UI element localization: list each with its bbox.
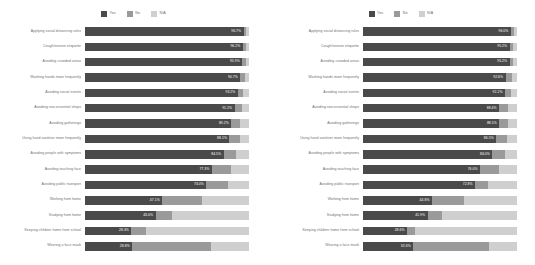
bar-segment-na[interactable] xyxy=(415,227,517,236)
bar-segment-no[interactable] xyxy=(235,104,242,113)
stacked-bar[interactable]: 32.6% xyxy=(363,242,517,251)
bar-segment-na[interactable] xyxy=(489,242,517,251)
legend-item-yes[interactable]: Yes xyxy=(101,11,116,17)
bar-segment-no[interactable] xyxy=(229,135,239,144)
bar-segment-yes[interactable]: 88.4% xyxy=(363,104,499,113)
bar-segment-no[interactable] xyxy=(212,165,232,174)
bar-segment-na[interactable] xyxy=(488,181,517,190)
bar-segment-yes[interactable]: 89.2% xyxy=(85,119,231,128)
bar-segment-na[interactable] xyxy=(231,165,249,174)
stacked-bar[interactable]: 88.5% xyxy=(363,119,517,128)
stacked-bar[interactable]: 88.4% xyxy=(363,104,517,113)
bar-segment-na[interactable] xyxy=(499,165,517,174)
stacked-bar[interactable]: 28.8% xyxy=(85,242,249,251)
bar-segment-na[interactable] xyxy=(228,181,249,190)
bar-segment-yes[interactable]: 95.2% xyxy=(363,58,510,67)
stacked-bar[interactable]: 28.6% xyxy=(363,227,517,236)
bar-segment-yes[interactable]: 47.1% xyxy=(85,196,162,205)
stacked-bar[interactable]: 74.0% xyxy=(85,181,249,190)
stacked-bar[interactable]: 72.8% xyxy=(363,181,517,190)
bar-segment-na[interactable] xyxy=(246,27,249,36)
bar-segment-yes[interactable]: 76.0% xyxy=(363,165,480,174)
bar-segment-na[interactable] xyxy=(464,196,517,205)
bar-segment-yes[interactable]: 94.7% xyxy=(85,73,240,82)
bar-segment-yes[interactable]: 91.2% xyxy=(85,104,235,113)
bar-segment-na[interactable] xyxy=(507,135,517,144)
bar-segment-no[interactable] xyxy=(131,227,146,236)
bar-segment-no[interactable] xyxy=(492,150,504,159)
stacked-bar[interactable]: 86.5% xyxy=(363,135,517,144)
legend-item-na[interactable]: N/A xyxy=(151,11,166,17)
bar-segment-no[interactable] xyxy=(499,119,508,128)
bar-segment-na[interactable] xyxy=(202,196,249,205)
bar-segment-na[interactable] xyxy=(442,211,517,220)
bar-segment-na[interactable] xyxy=(505,150,517,159)
bar-segment-yes[interactable]: 86.5% xyxy=(363,135,496,144)
bar-segment-na[interactable] xyxy=(514,27,517,36)
stacked-bar[interactable]: 95.2% xyxy=(363,58,517,67)
bar-segment-no[interactable] xyxy=(231,119,240,128)
bar-segment-yes[interactable]: 96.7% xyxy=(85,27,244,36)
legend-item-no[interactable]: No xyxy=(394,11,407,17)
bar-segment-na[interactable] xyxy=(172,211,249,220)
bar-segment-yes[interactable]: 96.2% xyxy=(85,43,243,52)
stacked-bar[interactable]: 28.3% xyxy=(85,227,249,236)
bar-segment-yes[interactable]: 28.8% xyxy=(85,242,132,251)
bar-segment-no[interactable] xyxy=(132,242,211,251)
stacked-bar[interactable]: 96.2% xyxy=(85,43,249,52)
stacked-bar[interactable]: 84.5% xyxy=(85,150,249,159)
bar-segment-no[interactable] xyxy=(499,104,508,113)
stacked-bar[interactable]: 77.3% xyxy=(85,165,249,174)
stacked-bar[interactable]: 92.6% xyxy=(363,73,517,82)
bar-segment-na[interactable] xyxy=(236,150,249,159)
bar-segment-yes[interactable]: 93.2% xyxy=(85,89,238,98)
bar-segment-na[interactable] xyxy=(512,73,517,82)
bar-segment-na[interactable] xyxy=(146,227,249,236)
bar-segment-yes[interactable]: 43.0% xyxy=(85,211,156,220)
bar-segment-no[interactable] xyxy=(506,73,513,82)
bar-segment-na[interactable] xyxy=(240,135,249,144)
bar-segment-yes[interactable]: 92.6% xyxy=(363,73,506,82)
bar-segment-na[interactable] xyxy=(508,104,517,113)
bar-segment-na[interactable] xyxy=(242,104,249,113)
bar-segment-na[interactable] xyxy=(211,242,249,251)
stacked-bar[interactable]: 47.1% xyxy=(85,196,249,205)
stacked-bar[interactable]: 44.8% xyxy=(363,196,517,205)
stacked-bar[interactable]: 84.0% xyxy=(363,150,517,159)
bar-segment-na[interactable] xyxy=(511,89,517,98)
stacked-bar[interactable]: 88.1% xyxy=(85,135,249,144)
stacked-bar[interactable]: 76.0% xyxy=(363,165,517,174)
legend-item-yes[interactable]: Yes xyxy=(369,11,384,17)
stacked-bar[interactable]: 93.2% xyxy=(85,89,249,98)
bar-segment-yes[interactable]: 96.0% xyxy=(363,27,511,36)
bar-segment-na[interactable] xyxy=(513,58,517,67)
stacked-bar[interactable]: 89.2% xyxy=(85,119,249,128)
bar-segment-yes[interactable]: 72.8% xyxy=(363,181,475,190)
bar-segment-yes[interactable]: 74.0% xyxy=(85,181,206,190)
bar-segment-no[interactable] xyxy=(432,196,464,205)
bar-segment-no[interactable] xyxy=(156,211,172,220)
bar-segment-yes[interactable]: 28.6% xyxy=(363,227,407,236)
bar-segment-yes[interactable]: 41.9% xyxy=(363,211,428,220)
bar-segment-na[interactable] xyxy=(246,43,249,52)
bar-segment-na[interactable] xyxy=(246,58,249,67)
bar-segment-na[interactable] xyxy=(508,119,517,128)
bar-segment-na[interactable] xyxy=(243,89,249,98)
stacked-bar[interactable]: 92.2% xyxy=(363,89,517,98)
bar-segment-no[interactable] xyxy=(407,227,415,236)
bar-segment-yes[interactable]: 44.8% xyxy=(363,196,432,205)
bar-segment-yes[interactable]: 32.6% xyxy=(363,242,413,251)
bar-segment-no[interactable] xyxy=(206,181,228,190)
stacked-bar[interactable]: 95.9% xyxy=(85,58,249,67)
stacked-bar[interactable]: 43.0% xyxy=(85,211,249,220)
bar-segment-no[interactable] xyxy=(224,150,236,159)
bar-segment-yes[interactable]: 95.2% xyxy=(363,43,510,52)
bar-segment-yes[interactable]: 84.5% xyxy=(85,150,224,159)
bar-segment-yes[interactable]: 92.2% xyxy=(363,89,505,98)
bar-segment-no[interactable] xyxy=(428,211,442,220)
bar-segment-na[interactable] xyxy=(513,43,517,52)
bar-segment-no[interactable] xyxy=(480,165,498,174)
bar-segment-yes[interactable]: 95.9% xyxy=(85,58,242,67)
bar-segment-yes[interactable]: 77.3% xyxy=(85,165,212,174)
stacked-bar[interactable]: 91.2% xyxy=(85,104,249,113)
